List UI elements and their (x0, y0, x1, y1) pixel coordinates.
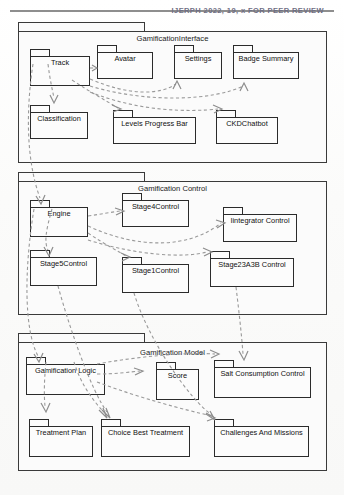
node-label: Badge Summary (233, 54, 299, 63)
node-tab (214, 419, 234, 426)
node-label: Engine (30, 209, 88, 218)
page-header-text: IJERPH 2022, 19, x FOR PEER REVIEW (124, 6, 324, 16)
node-salt-consumption-control[interactable]: Salt Consumption Control (214, 360, 311, 398)
node-label: Stage5Control (30, 259, 97, 268)
node-label: Stage23A3B Control (210, 260, 294, 269)
node-tab (233, 45, 253, 52)
node-iintegrator-control[interactable]: Iintegrator Control (223, 207, 297, 242)
node-badge-summary[interactable]: Badge Summary (233, 45, 299, 79)
node-label: Gamification Logic (26, 366, 105, 375)
node-tab (30, 200, 50, 207)
node-choice-best-treatment[interactable]: Choice Best Treatment (101, 419, 190, 457)
node-label: Iintegrator Control (223, 216, 297, 225)
node-tab (113, 110, 133, 117)
package-title-gamification-interface: GamificationInterface (18, 34, 327, 43)
package-tab (18, 333, 145, 342)
node-label: Salt Consumption Control (214, 369, 311, 378)
node-stage23a3b-control[interactable]: Stage23A3B Control (210, 251, 294, 287)
node-label: Treatment Plan (29, 428, 93, 437)
node-ckdchatbot[interactable]: CKDChatbot (216, 110, 278, 144)
node-stage4control[interactable]: Stage4Control (122, 193, 189, 227)
page-header-rule: IJERPH 2022, 19, x FOR PEER REVIEW (10, 10, 334, 12)
node-gamification-logic[interactable]: Gamification Logic (26, 357, 105, 395)
node-tab (223, 207, 243, 214)
node-label: Track (30, 58, 90, 67)
node-score[interactable]: Score (156, 362, 199, 400)
node-label: Levels Progress Bar (113, 119, 196, 128)
node-label: Stage4Control (122, 202, 189, 211)
node-tab (122, 193, 142, 200)
node-label: Avatar (97, 54, 153, 63)
node-engine[interactable]: Engine (30, 200, 88, 237)
node-treatment-plan[interactable]: Treatment Plan (29, 419, 93, 457)
node-label: Choice Best Treatment (101, 428, 190, 437)
package-tab (18, 172, 145, 181)
package-gamification-control[interactable]: Gamification Control Engine Stage4Contro… (18, 172, 327, 315)
node-levels-progress-bar[interactable]: Levels Progress Bar (113, 110, 196, 144)
node-avatar[interactable]: Avatar (97, 45, 153, 79)
node-label: Settings (174, 54, 222, 63)
node-classification[interactable]: Classification (30, 105, 88, 139)
diagram-page: IJERPH 2022, 19, x FOR PEER REVIEW Gamif… (0, 0, 344, 495)
package-gamification-model[interactable]: Gamification Model Gamification Logic Sc… (18, 333, 327, 471)
node-tab (156, 362, 176, 369)
node-stage1control[interactable]: Stage1Control (122, 257, 189, 293)
node-challenges-and-missions[interactable]: Challenges And Missions (214, 419, 309, 457)
package-title-gamification-model: Gamification Model (18, 348, 327, 357)
package-title-gamification-control: Gamification Control (18, 184, 327, 193)
node-tab (210, 251, 230, 258)
node-tab (122, 257, 142, 264)
node-stage5control[interactable]: Stage5Control (30, 250, 97, 286)
node-tab (26, 357, 46, 364)
node-label: CKDChatbot (216, 119, 278, 128)
node-tab (214, 360, 234, 367)
node-tab (97, 45, 117, 52)
node-track[interactable]: Track (30, 49, 90, 86)
package-gamification-interface[interactable]: GamificationInterface Track Avatar Setti… (18, 22, 327, 163)
node-tab (29, 419, 49, 426)
node-tab (216, 110, 236, 117)
node-label: Score (156, 371, 199, 380)
package-tab (18, 22, 145, 31)
node-tab (30, 250, 50, 257)
node-label: Stage1Control (122, 266, 189, 275)
node-label: Classification (30, 114, 88, 123)
node-tab (101, 419, 121, 426)
node-label: Challenges And Missions (214, 428, 309, 437)
node-tab (30, 105, 50, 112)
node-tab (30, 49, 50, 56)
node-settings[interactable]: Settings (174, 45, 222, 79)
node-tab (174, 45, 194, 52)
